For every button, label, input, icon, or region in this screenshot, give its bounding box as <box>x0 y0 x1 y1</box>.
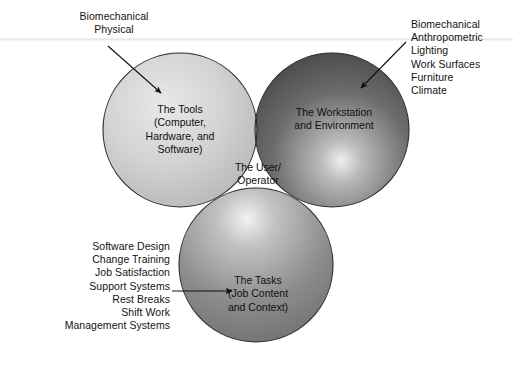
venn-diagram-figure: Biomechanical Physical Biomechanical Ant… <box>0 0 513 371</box>
annotation-tasks-factors: Software Design Change Training Job Sati… <box>8 240 170 332</box>
annotation-tools-factors: Biomechanical Physical <box>58 10 170 36</box>
label-intersection-user-operator: The User/ Operator <box>212 161 304 188</box>
label-circle-tools: The Tools (Computer, Hardware, and Softw… <box>120 103 240 157</box>
label-circle-workstation: The Workstation and Environment <box>272 106 396 133</box>
label-circle-tasks: The Tasks (Job Content and Context) <box>198 274 318 314</box>
circle-tasks <box>179 188 333 342</box>
annotation-workstation-factors: Biomechanical Anthropometric Lighting Wo… <box>411 18 513 97</box>
